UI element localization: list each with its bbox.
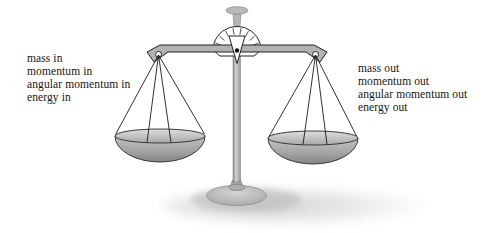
label-energy-in: energy in <box>27 91 130 104</box>
balance-diagram: mass in momentum in angular momentum in … <box>0 0 490 233</box>
label-mass-out: mass out <box>358 62 467 75</box>
outputs-label-block: mass out momentum out angular momentum o… <box>358 62 467 114</box>
inputs-label-block: mass in momentum in angular momentum in … <box>27 52 130 104</box>
balance-scale-illustration <box>0 0 490 233</box>
label-momentum-in: momentum in <box>27 65 130 78</box>
label-angular-momentum-out: angular momentum out <box>358 88 467 101</box>
left-pan <box>115 129 205 162</box>
right-pan <box>268 131 358 164</box>
pedestal-base <box>207 180 267 206</box>
label-energy-out: energy out <box>358 101 467 114</box>
pivot-pin <box>235 48 239 52</box>
ground-shadow <box>162 187 434 225</box>
central-pole <box>233 50 241 182</box>
label-momentum-out: momentum out <box>358 75 467 88</box>
label-angular-momentum-in: angular momentum in <box>27 78 130 91</box>
label-mass-in: mass in <box>27 52 130 65</box>
